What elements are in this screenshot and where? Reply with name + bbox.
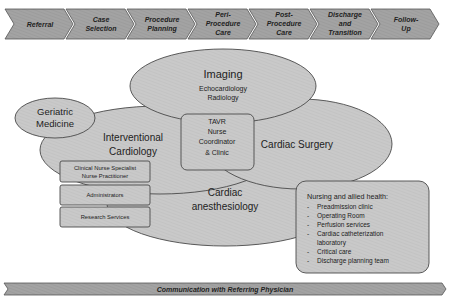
nursing-item: Perfusion services (317, 221, 371, 228)
interventional-label: Cardiology (109, 146, 157, 157)
process-bar: Referral Case Selection Procedure Planni… (5, 9, 439, 39)
step-label: Case (93, 16, 110, 23)
step-label: and (339, 20, 352, 27)
svg-text:-: - (307, 257, 309, 264)
step-label: Procedure (145, 16, 180, 23)
support-label: Administrators (86, 192, 123, 198)
tavr-team-diagram: Referral Case Selection Procedure Planni… (0, 0, 450, 301)
svg-text:-: - (307, 230, 309, 237)
step-label: Discharge (328, 11, 362, 19)
support-label: Nurse Practitioner (82, 173, 128, 179)
chevron-case-selection (66, 9, 134, 39)
nursing-title: Nursing and allied health: (307, 192, 388, 201)
step-label: Procedure (206, 20, 241, 27)
nursing-item: Critical care (317, 248, 352, 255)
tavr-label: & Clinic (205, 149, 229, 156)
step-label: Referral (27, 21, 55, 28)
communication-label: Communication with Referring Physician (157, 286, 294, 294)
tavr-label: TAVR (208, 118, 226, 125)
nursing-item: Preadmission clinic (317, 203, 373, 210)
step-label: Selection (85, 25, 116, 32)
tavr-label: Nurse (208, 128, 227, 135)
step-label: Post- (275, 11, 293, 18)
cardiac-surgery-label: Cardiac Surgery (261, 139, 333, 150)
step-label: Up (401, 25, 411, 33)
chevron-procedure-planning (127, 9, 195, 39)
anesthesiology-label: Cardiac (208, 187, 242, 198)
geriatric-label: Medicine (36, 118, 74, 129)
step-label: Care (215, 29, 231, 36)
svg-text:-: - (307, 248, 309, 255)
nursing-item: Operating Room (317, 212, 365, 220)
imaging-item: Echocardiology (199, 85, 247, 93)
svg-text:-: - (307, 221, 309, 228)
nursing-item: Discharge planning team (317, 257, 389, 265)
support-label: Research Services (81, 214, 130, 220)
step-label: Follow- (394, 16, 419, 23)
tavr-label: Coordinator (199, 138, 236, 145)
anesthesiology-label: anesthesiology (192, 201, 259, 212)
chevron-follow-up (371, 9, 439, 39)
step-label: Planning (147, 25, 177, 33)
step-label: Peri- (215, 11, 231, 18)
interventional-label: Interventional (103, 132, 163, 143)
nursing-item: Cardiac catheterization (317, 230, 384, 237)
imaging-item: Radiology (207, 94, 239, 102)
step-label: Care (276, 29, 292, 36)
imaging-title: Imaging (203, 68, 242, 80)
svg-text:-: - (307, 212, 309, 219)
step-label: Procedure (267, 20, 302, 27)
svg-text:-: - (307, 203, 309, 210)
step-label: Transition (328, 29, 362, 36)
geriatric-label: Geriatric (37, 106, 73, 117)
support-label: Clinical Nurse Specialist (74, 165, 137, 171)
nursing-item: laboratory (317, 239, 347, 247)
